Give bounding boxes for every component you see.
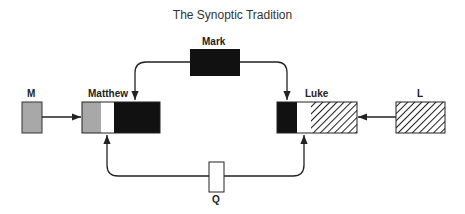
m-label: M — [27, 88, 35, 99]
q-box — [209, 162, 224, 192]
edge-mark-matthew — [135, 62, 190, 100]
matthew-box — [82, 102, 160, 133]
luke-box — [277, 102, 357, 133]
luke-label: Luke — [305, 88, 328, 99]
l-label: L — [417, 88, 423, 99]
mark-box — [190, 49, 240, 76]
matthew-label: Matthew — [88, 88, 128, 99]
mark-label: Mark — [202, 36, 225, 47]
m-box — [22, 102, 42, 133]
q-label: Q — [212, 194, 220, 205]
edge-q-matthew — [107, 135, 209, 176]
l-box — [396, 102, 445, 133]
synoptic-diagram — [0, 0, 465, 214]
edge-mark-luke — [240, 62, 287, 100]
edge-q-luke — [224, 135, 304, 176]
